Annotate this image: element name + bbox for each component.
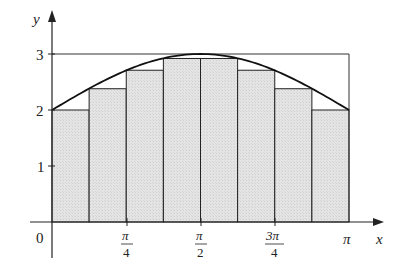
x-axis-arrow-icon: [373, 218, 384, 226]
riemann-sum-chart: y 3 2 1 0 π 4 π 2 3π 4 π x: [0, 0, 406, 272]
riemann-rectangle: [238, 70, 275, 222]
origin-label: 0: [36, 230, 44, 246]
riemann-rectangle: [312, 110, 349, 222]
riemann-rectangle: [201, 58, 238, 222]
riemann-rectangle: [163, 58, 200, 222]
x-tick-label-3pi-4-den: 4: [271, 245, 278, 260]
x-tick-label-pi-2-num: π: [196, 228, 203, 243]
x-tick-label-pi-4-num: π: [122, 228, 129, 243]
riemann-rectangle: [275, 89, 312, 222]
x-axis-label: x: [375, 231, 383, 247]
x-tick-label-pi-4-den: 4: [123, 245, 130, 260]
y-axis-label: y: [31, 11, 40, 27]
y-tick-label-3: 3: [36, 47, 44, 63]
x-tick-label-3pi-4-num: 3π: [265, 228, 280, 243]
y-axis-arrow-icon: [48, 10, 56, 22]
riemann-rectangle: [52, 110, 89, 222]
x-tick-label-pi: π: [343, 231, 351, 247]
riemann-rectangle: [126, 70, 163, 222]
y-tick-label-2: 2: [36, 103, 44, 119]
riemann-rectangles: [52, 58, 349, 222]
y-tick-label-1: 1: [37, 159, 45, 175]
x-tick-label-pi-2-den: 2: [197, 245, 204, 260]
riemann-rectangle: [89, 89, 126, 222]
